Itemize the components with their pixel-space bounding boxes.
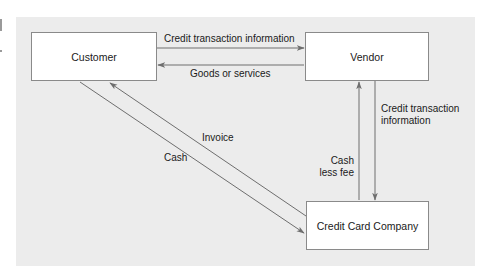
edge-label-invoice: Invoice [202, 132, 234, 144]
edge-label-vendor-to-ccc-line1: Credit transaction [381, 103, 459, 115]
edge-label-vendor-to-customer: Goods or services [190, 68, 271, 80]
edge-label-vendor-to-ccc-line2: information [381, 115, 430, 127]
vendor-node: Vendor [305, 32, 429, 81]
arrow-customer-to-ccc [80, 82, 304, 233]
customer-node: Customer [31, 32, 157, 81]
edge-label-customer-to-vendor: Credit transaction information [164, 33, 295, 45]
customer-label: Customer [71, 51, 117, 63]
edge-label-ccc-to-vendor-line1: Cash [326, 155, 354, 167]
credit-card-company-node: Credit Card Company [306, 201, 429, 250]
arrow-ccc-to-customer [110, 83, 306, 216]
edge-label-cash: Cash [164, 152, 187, 164]
edge-label-ccc-to-vendor-line2: less fee [314, 167, 354, 179]
vendor-label: Vendor [350, 51, 383, 63]
credit-card-company-label: Credit Card Company [317, 220, 419, 232]
